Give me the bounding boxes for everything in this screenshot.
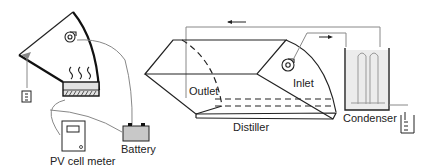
flask-icon xyxy=(401,112,414,133)
arrow-right-icon xyxy=(319,35,333,39)
basin xyxy=(63,82,99,96)
distiller-label: Distiller xyxy=(233,121,269,133)
distillation-system-diagram: PV cell meter Battery xyxy=(0,0,433,168)
battery-icon xyxy=(123,123,149,141)
outlet-label: Outlet xyxy=(189,85,218,97)
solar-collector xyxy=(19,12,99,102)
pv-meter-label: PV cell meter xyxy=(50,155,116,167)
condenser-label: Condenser xyxy=(343,112,397,124)
heat-waves-icon xyxy=(70,67,91,79)
flask-icon xyxy=(22,91,31,102)
fan-icon xyxy=(65,32,76,42)
condenser xyxy=(345,48,408,110)
fan-icon xyxy=(282,59,294,71)
meter-icon xyxy=(62,121,85,151)
battery-label: Battery xyxy=(121,143,156,155)
arrow-left-icon xyxy=(227,20,246,24)
inlet-label: Inlet xyxy=(293,77,314,89)
